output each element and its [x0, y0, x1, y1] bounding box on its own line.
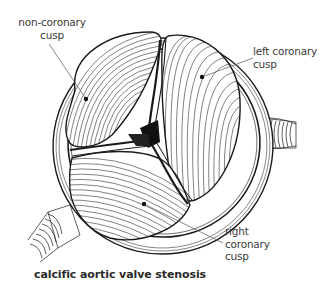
marker-dot-left-coronary	[200, 75, 204, 79]
marker-dot-right-coronary	[142, 202, 146, 206]
aortic-valve-illustration: non-coronary cusp left coronary cusp rig…	[0, 0, 330, 286]
label-line: cusp	[253, 58, 317, 71]
valve-drawing	[0, 0, 330, 286]
label-line: left coronary	[253, 45, 317, 58]
label-line: cusp	[225, 250, 270, 263]
label-left-coronary-cusp: left coronary cusp	[253, 45, 317, 70]
label-line: right	[225, 225, 270, 238]
marker-dot-non-coronary	[84, 97, 88, 101]
label-line: cusp	[14, 29, 90, 42]
label-line: non-coronary	[14, 16, 90, 29]
label-non-coronary-cusp: non-coronary cusp	[14, 16, 90, 41]
figure-caption: calcific aortic valve stenosis	[34, 268, 206, 281]
label-line: coronary	[225, 238, 270, 251]
label-right-coronary-cusp: right coronary cusp	[225, 225, 270, 263]
left-vessel-stub	[28, 205, 80, 262]
